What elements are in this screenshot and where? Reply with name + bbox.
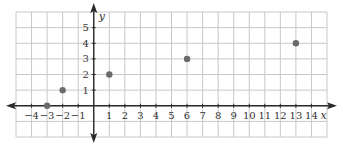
x-axis-label: x <box>320 109 327 122</box>
x-tick-label: 14 <box>305 110 318 121</box>
x-tick-label: −3 <box>40 110 55 121</box>
y-axis-label: y <box>98 10 106 23</box>
x-tick-label: 2 <box>122 110 128 121</box>
x-tick-label: 4 <box>153 110 159 121</box>
x-tick-labels: −4−3−2−11234567891011121314 <box>24 110 318 121</box>
y-tick-label: 5 <box>82 22 88 33</box>
data-point <box>59 87 65 93</box>
y-tick-labels: 12345 <box>82 22 88 96</box>
data-point <box>106 71 112 77</box>
x-tick-label: 10 <box>243 110 256 121</box>
x-tick-label: 8 <box>215 110 221 121</box>
data-point <box>293 40 299 46</box>
x-tick-label: 13 <box>290 110 303 121</box>
data-point <box>184 56 190 62</box>
x-tick-label: 7 <box>199 110 205 121</box>
x-tick-label: 9 <box>231 110 237 121</box>
x-tick-label: 1 <box>106 110 112 121</box>
y-tick-label: 1 <box>82 85 88 96</box>
x-tick-label: −1 <box>71 110 86 121</box>
y-tick-label: 2 <box>82 69 88 80</box>
x-tick-label: 12 <box>274 110 287 121</box>
x-tick-label: 6 <box>184 110 190 121</box>
y-tick-label: 3 <box>82 53 88 64</box>
x-tick-label: −4 <box>24 110 39 121</box>
x-tick-label: 5 <box>168 110 174 121</box>
x-tick-label: 11 <box>258 110 271 121</box>
y-tick-label: 4 <box>82 38 88 49</box>
x-tick-label: 3 <box>137 110 143 121</box>
x-tick-label: −2 <box>55 110 70 121</box>
coordinate-plane: −4−3−2−11234567891011121314 12345 x y <box>0 0 343 146</box>
data-point <box>44 103 50 109</box>
